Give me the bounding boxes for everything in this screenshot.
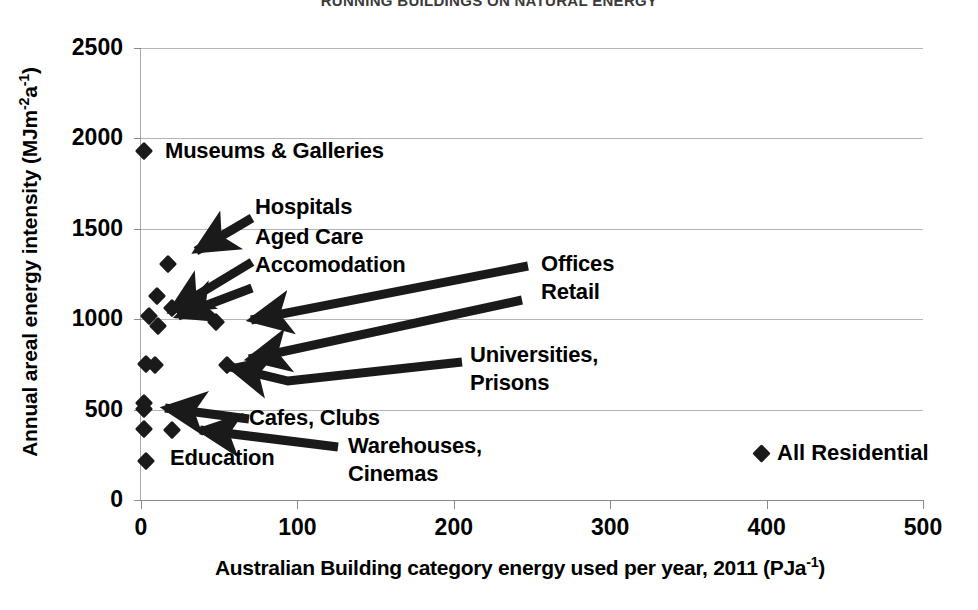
x-axis-title-suffix: ): [818, 556, 825, 579]
xtick-mark-500: [923, 500, 924, 509]
x-axis-line: [141, 500, 923, 501]
ytick-label-500: 500: [3, 396, 123, 423]
y-axis-title-suffix: ): [18, 67, 41, 74]
gridline-1000: [141, 319, 923, 320]
ytick-mark-1000: [134, 319, 141, 320]
ytick-label-2000: 2000: [3, 124, 123, 151]
annotation-education: Education: [170, 446, 275, 469]
data-point-marker: [136, 452, 154, 470]
ytick-label-0: 0: [3, 486, 123, 513]
ytick-label-2500: 2500: [3, 34, 123, 61]
annotation-universities: Universities,: [470, 343, 598, 366]
xtick-label-500: 500: [878, 514, 968, 541]
data-point-marker: [163, 421, 181, 439]
annotation-hospitals: Hospitals: [255, 195, 352, 218]
x-axis-title-sup: -1: [806, 554, 818, 570]
ytick-mark-2000: [134, 138, 141, 139]
annotation-museums-galleries: Museums & Galleries: [165, 139, 384, 162]
xtick-label-200: 200: [409, 514, 499, 541]
gridline-2500: [141, 48, 923, 49]
annotation-accomodation: Accomodation: [255, 253, 405, 276]
data-point-marker: [207, 313, 225, 331]
xtick-mark-300: [610, 500, 611, 509]
annotation-retail: Retail: [541, 280, 600, 303]
data-point-marker: [147, 286, 165, 304]
y-axis-title-mid: a: [18, 86, 41, 97]
ytick-label-1500: 1500: [3, 215, 123, 242]
xtick-label-0: 0: [96, 514, 186, 541]
ytick-mark-0: [134, 500, 141, 501]
xtick-label-300: 300: [565, 514, 655, 541]
legend-label-all-residential: All Residential: [777, 440, 929, 466]
annotation-prisons: Prisons: [470, 371, 549, 394]
xtick-mark-200: [454, 500, 455, 509]
x-axis-title-text: Australian Building category energy used…: [215, 556, 806, 579]
annotation-warehouses: Warehouses,: [348, 434, 482, 457]
xtick-mark-0: [141, 500, 142, 509]
data-point-marker: [135, 142, 153, 160]
annotation-offices: Offices: [541, 252, 614, 275]
legend: All Residential: [755, 440, 929, 466]
diamond-icon: [752, 444, 770, 462]
annotation-cinemas: Cinemas: [348, 462, 438, 485]
data-point-marker: [218, 356, 236, 374]
data-point-marker: [163, 299, 181, 317]
xtick-mark-100: [297, 500, 298, 509]
annotation-aged-care: Aged Care: [255, 225, 363, 248]
data-point-marker: [135, 420, 153, 438]
ytick-mark-1500: [134, 229, 141, 230]
chart-container: RUNNING BUILDINGS ON NATURAL ENERGY Annu…: [0, 0, 978, 610]
x-axis-title: Australian Building category energy used…: [90, 556, 950, 580]
ytick-mark-2500: [134, 48, 141, 49]
xtick-mark-400: [767, 500, 768, 509]
y-axis-title-sup2: -1: [16, 74, 32, 86]
y-axis-title: Annual areal energy intensity (MJm-2a-1): [18, 27, 42, 497]
data-point-marker: [158, 255, 176, 273]
ytick-label-1000: 1000: [3, 305, 123, 332]
xtick-label-400: 400: [722, 514, 812, 541]
xtick-label-100: 100: [252, 514, 342, 541]
chart-title: RUNNING BUILDINGS ON NATURAL ENERGY: [0, 0, 978, 9]
y-axis-title-sup1: -2: [16, 98, 32, 110]
annotation-cafes-clubs: Cafes, Clubs: [249, 406, 380, 429]
